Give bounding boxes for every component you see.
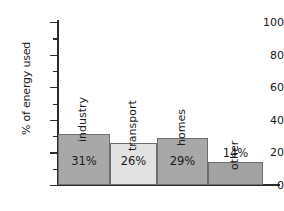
y-axis-title: % of energy used — [20, 9, 33, 169]
y-tick-major — [50, 120, 58, 121]
bar-category-label: other — [228, 141, 241, 170]
bar-category-label: transport — [126, 100, 139, 151]
y-tick-major — [50, 22, 58, 23]
bar-chart: % of energy used 020406080100 31%industr… — [0, 0, 284, 211]
bar-category-label: industry — [76, 97, 89, 142]
bar-value-label: 29% — [157, 154, 208, 168]
y-tick-major — [50, 152, 58, 153]
plot-area: 31%industry26%transport29%homes14%other — [58, 22, 280, 185]
y-tick-major — [50, 87, 58, 88]
bar-value-label: 26% — [110, 154, 157, 168]
y-tick-major — [50, 55, 58, 56]
bar-value-label: 31% — [58, 154, 110, 168]
y-tick-major — [50, 185, 58, 186]
bar-category-label: homes — [175, 109, 188, 146]
